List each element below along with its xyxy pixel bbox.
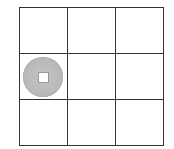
board-cell-2-0[interactable] (20, 100, 68, 146)
square-hole-coin-icon[interactable] (23, 57, 63, 97)
board-cell-2-1[interactable] (68, 100, 116, 146)
board-cell-0-0[interactable] (20, 8, 68, 54)
board-cell-0-1[interactable] (68, 8, 116, 54)
coin-hole (39, 73, 48, 82)
board-cell-1-1[interactable] (68, 54, 116, 100)
board-cell-2-2[interactable] (116, 100, 164, 146)
board-cell-1-0[interactable] (20, 54, 68, 100)
game-board (19, 7, 164, 146)
board-cell-1-2[interactable] (116, 54, 164, 100)
board-cell-0-2[interactable] (116, 8, 164, 54)
